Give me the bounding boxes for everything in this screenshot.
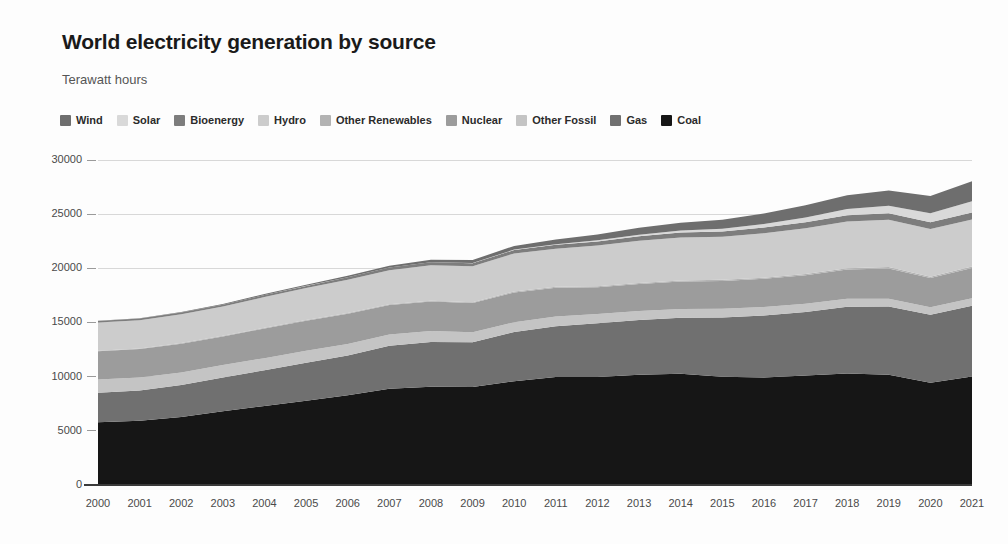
x-axis-tick-label: 2012 [585, 497, 609, 509]
y-axis-tick-label: 30000 [51, 153, 82, 165]
x-axis-tick-label: 2004 [252, 497, 276, 509]
plot-area: 050001000015000200002500030000 200020012… [0, 0, 1008, 544]
x-axis-tick-label: 2015 [710, 497, 734, 509]
x-axis-tick-label: 2008 [419, 497, 443, 509]
x-axis-tick-label: 2018 [835, 497, 859, 509]
x-axis-tick-label: 2013 [627, 497, 651, 509]
y-axis-tick-label: 20000 [51, 261, 82, 273]
y-axis-tick-label: 10000 [51, 370, 82, 382]
x-axis-tick-label: 2005 [294, 497, 318, 509]
y-axis-tick-label: 25000 [51, 207, 82, 219]
x-axis-tick-label: 2019 [877, 497, 901, 509]
y-axis-labels-group: 050001000015000200002500030000 [51, 153, 82, 490]
x-axis-tick-label: 2014 [668, 497, 692, 509]
stacked-area-chart: 050001000015000200002500030000 200020012… [0, 0, 1008, 544]
x-axis-tick-label: 2021 [960, 497, 984, 509]
y-axis-tick-label: 15000 [51, 315, 82, 327]
x-axis-tick-label: 2003 [211, 497, 235, 509]
x-axis-tick-label: 2006 [335, 497, 359, 509]
x-axis-tick-label: 2000 [86, 497, 110, 509]
chart-figure: World electricity generation by source T… [0, 0, 1008, 544]
x-axis-tick-label: 2011 [544, 497, 568, 509]
x-axis-tick-label: 2009 [460, 497, 484, 509]
x-axis-tick-label: 2002 [169, 497, 193, 509]
x-axis-tick-label: 2001 [127, 497, 151, 509]
x-axis-labels-group: 2000200120022003200420052006200720082009… [86, 497, 984, 509]
x-axis-tick-label: 2010 [502, 497, 526, 509]
y-axis-tick-label: 5000 [58, 424, 82, 436]
area-series-group [98, 181, 972, 485]
y-axis-tick-label: 0 [76, 478, 82, 490]
x-axis-tick-label: 2017 [793, 497, 817, 509]
x-axis-tick-label: 2020 [918, 497, 942, 509]
x-axis-tick-label: 2007 [377, 497, 401, 509]
x-axis-tick-label: 2016 [752, 497, 776, 509]
tickmarks-group [87, 160, 96, 485]
